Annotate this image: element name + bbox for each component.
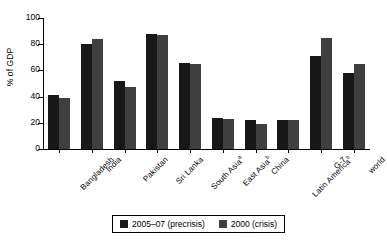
bar <box>212 118 223 149</box>
chart-legend: 2005–07 (precrisis) 2000 (crisis) <box>112 215 285 233</box>
bar-group <box>146 18 168 149</box>
x-tick-mark <box>223 149 224 153</box>
x-axis-label: South Asiaa <box>210 155 246 191</box>
legend-swatch-crisis <box>219 220 227 228</box>
bar-group <box>343 18 365 149</box>
bar <box>321 38 332 149</box>
bar-group <box>310 18 332 149</box>
bar <box>59 98 70 149</box>
y-tick-label: 100 <box>26 12 40 22</box>
x-tick-mark <box>92 149 93 153</box>
x-tick-mark <box>59 149 60 153</box>
y-tick-label: 60 <box>31 64 40 74</box>
bar <box>310 56 321 149</box>
bar <box>256 124 267 149</box>
bar-group <box>81 18 103 149</box>
x-tick-mark <box>288 149 289 153</box>
x-axis-label: Pakistan <box>141 155 170 184</box>
legend-label-crisis: 2000 (crisis) <box>231 219 277 229</box>
x-axis-label: Sri Lanka <box>175 155 206 186</box>
bar-group <box>245 18 267 149</box>
x-axis-label: China <box>269 155 291 177</box>
x-axis-label: East Asiab <box>241 155 274 188</box>
x-tick-mark <box>125 149 126 153</box>
bar-group <box>179 18 201 149</box>
bar <box>190 64 201 149</box>
bar <box>343 73 354 149</box>
bar <box>277 120 288 149</box>
y-tick-label: 40 <box>31 91 40 101</box>
bar-group <box>48 18 70 149</box>
y-tick-label: 80 <box>31 38 40 48</box>
y-tick-label: 20 <box>31 117 40 127</box>
x-axis-label-text: Sri Lanka <box>175 155 206 186</box>
legend-label-precrisis: 2005–07 (precrisis) <box>132 219 205 229</box>
x-tick-mark <box>256 149 257 153</box>
legend-item-precrisis: 2005–07 (precrisis) <box>120 219 205 229</box>
bar-group <box>277 18 299 149</box>
x-axis-label: Latin Americab <box>311 155 355 199</box>
plot-area: 020406080100 <box>43 18 370 150</box>
x-tick-mark <box>157 149 158 153</box>
bar <box>288 120 299 149</box>
bar-group <box>114 18 136 149</box>
x-tick-mark <box>321 149 322 153</box>
x-axis-label-text: South Asia <box>210 157 244 191</box>
bar <box>157 35 168 149</box>
bar <box>146 34 157 149</box>
bar-group <box>212 18 234 149</box>
x-tick-mark <box>354 149 355 153</box>
bar <box>179 63 190 149</box>
x-axis-label-text: East Asia <box>241 157 272 188</box>
legend-swatch-precrisis <box>120 220 128 228</box>
x-axis-label-text: Pakistan <box>141 155 170 184</box>
bar <box>81 44 92 149</box>
bar <box>354 64 365 149</box>
x-axis-label: world <box>366 155 386 175</box>
bar <box>114 81 125 149</box>
x-axis-label-text: China <box>269 155 291 177</box>
x-tick-mark <box>190 149 191 153</box>
bar <box>92 39 103 149</box>
y-tick-label: 0 <box>35 143 40 153</box>
bar <box>125 87 136 149</box>
legend-item-crisis: 2000 (crisis) <box>219 219 277 229</box>
bar <box>48 95 59 149</box>
bar <box>223 119 234 149</box>
bar <box>245 120 256 149</box>
y-axis-title: % of GDP <box>5 37 15 97</box>
x-axis-label-text: world <box>366 155 386 175</box>
y-axis-line <box>43 18 44 150</box>
